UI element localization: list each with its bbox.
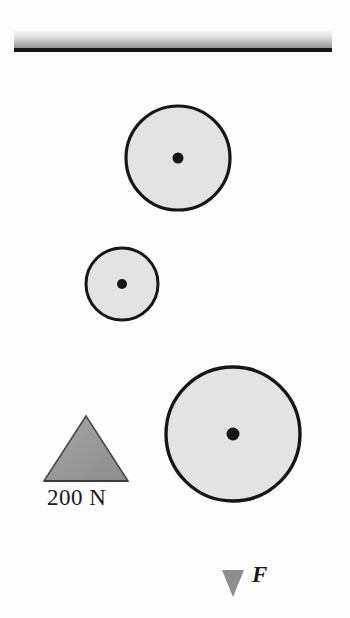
pulley-system-svg: [0, 0, 350, 618]
weight-label: 200 N: [47, 485, 106, 511]
pulley-diagram: 200 N F: [0, 0, 350, 618]
top-pulley-axle-icon: [173, 153, 184, 164]
force-arrowhead-icon: [222, 570, 244, 597]
ceiling-support: [14, 31, 332, 52]
applied-force-arrow: [222, 570, 244, 597]
ceiling-slab: [14, 31, 332, 50]
large-pulley-axle-icon: [227, 428, 240, 441]
small-pulley-axle-icon: [117, 279, 127, 289]
ceiling-bottom-edge: [14, 48, 332, 52]
force-label: F: [252, 562, 267, 588]
hanging-weight: [44, 416, 128, 481]
weight-triangle: [44, 416, 128, 481]
